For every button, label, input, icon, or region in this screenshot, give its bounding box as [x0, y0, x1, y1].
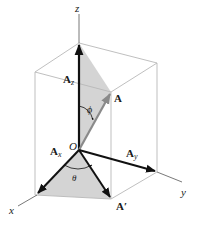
- y-axis: [157, 172, 182, 182]
- z-axis-label: z: [74, 2, 80, 14]
- vector-Ax-label: Ax: [50, 145, 62, 159]
- theta-label: θ: [72, 173, 77, 183]
- vector-Az-label: Az: [63, 73, 75, 87]
- phi-label: ϕ: [87, 104, 92, 115]
- vector-diagram: z x y O Az A Ax Ay A′ ϕ θ: [0, 0, 200, 226]
- vector-A-prime-label: A′: [116, 200, 127, 212]
- x-axis: [18, 195, 37, 206]
- shaded-vertical-plane: [79, 43, 111, 150]
- y-axis-label: y: [180, 186, 186, 198]
- origin-label: O: [69, 140, 77, 152]
- vector-Ay-label: Ay: [126, 147, 138, 161]
- vector-A-label: A: [114, 92, 122, 104]
- x-axis-label: x: [8, 204, 14, 216]
